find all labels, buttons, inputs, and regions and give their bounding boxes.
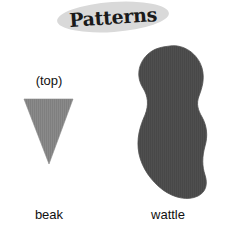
beak-label: beak [0,207,98,222]
pattern-piece-beak: (top) beak [0,70,100,235]
beak-shape [0,98,98,168]
patterns-figure: Patterns (top) beak [0,0,225,241]
pattern-piece-wattle: wattle [118,40,225,235]
wattle-shape [118,40,218,202]
figure-title-block: Patterns [0,0,225,38]
wattle-label: wattle [118,207,218,222]
page-title: Patterns [56,0,170,36]
beak-top-annotation: (top) [0,73,98,88]
